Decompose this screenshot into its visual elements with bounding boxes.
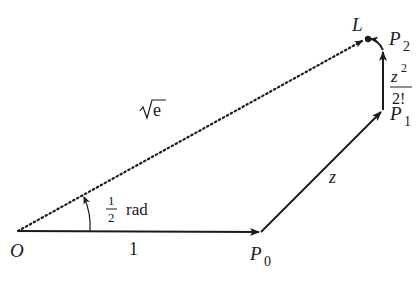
label-z-squared-over-2-factorial: z 2 2! xyxy=(390,61,412,107)
svg-text:1: 1 xyxy=(404,114,411,129)
angle-arc xyxy=(84,197,90,231)
label-one: 1 xyxy=(129,239,138,259)
svg-text:z: z xyxy=(390,67,398,86)
label-p2: P 2 xyxy=(388,28,410,54)
label-l: L xyxy=(351,14,363,35)
svg-text:rad: rad xyxy=(126,200,148,219)
svg-text:e: e xyxy=(153,100,161,120)
limit-point-l xyxy=(365,36,371,42)
dotted-line-o-to-l xyxy=(18,41,362,231)
vector-o-to-p0 xyxy=(18,231,259,232)
label-z: z xyxy=(328,167,336,187)
svg-text:2!: 2! xyxy=(392,90,405,107)
label-half-rad: 1 2 rad xyxy=(106,193,148,225)
svg-text:2: 2 xyxy=(108,210,115,225)
label-sqrt-e: e xyxy=(140,100,166,120)
svg-text:0: 0 xyxy=(264,254,271,269)
svg-text:2: 2 xyxy=(401,61,407,75)
vector-p0-to-p1 xyxy=(261,112,381,232)
svg-text:P: P xyxy=(249,243,262,264)
label-o: O xyxy=(10,240,24,261)
vector-p2-to-l xyxy=(371,39,383,50)
svg-text:1: 1 xyxy=(108,193,115,208)
svg-text:P: P xyxy=(388,28,401,49)
diagram-canvas: O 1 P 0 z P 1 z 2 2! P 2 L e 1 2 rad xyxy=(0,0,416,287)
label-p0: P 0 xyxy=(249,243,271,269)
svg-text:2: 2 xyxy=(403,39,410,54)
